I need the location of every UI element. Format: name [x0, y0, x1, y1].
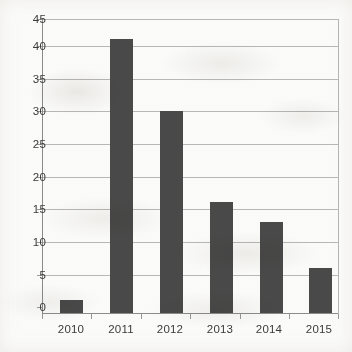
gridline-5 — [42, 275, 338, 276]
gridline-25 — [42, 144, 338, 145]
bar-2011 — [110, 39, 133, 313]
y-axis-tick-label: 0 — [16, 301, 46, 313]
y-axis-tick-label: 10 — [16, 236, 46, 248]
gridline-45 — [42, 19, 338, 20]
bar-2014 — [260, 222, 283, 313]
y-axis-tick-label: 20 — [16, 171, 46, 183]
x-axis-label-2015: 2015 — [294, 323, 344, 335]
gridline-15 — [42, 209, 338, 210]
gridline-30 — [42, 111, 338, 112]
x-axis-tick-mark — [240, 314, 241, 319]
y-axis-tick-label: 45 — [16, 13, 46, 25]
x-axis-label-2010: 2010 — [46, 323, 96, 335]
gridline-10 — [42, 242, 338, 243]
plot-area — [42, 19, 339, 314]
gridline-20 — [42, 177, 338, 178]
bar-2013 — [210, 202, 233, 313]
x-axis-label-2014: 2014 — [244, 323, 294, 335]
x-axis-tick-mark — [190, 314, 191, 319]
y-axis-tick-label: 40 — [16, 40, 46, 52]
x-axis-label-2011: 2011 — [96, 323, 146, 335]
bar-2010 — [60, 300, 83, 313]
bar-chart-figure: 45 40 35 30 25 20 15 10 5 0 — [0, 0, 352, 352]
x-axis-tick-mark — [42, 314, 43, 319]
x-axis-tick-mark — [91, 314, 92, 319]
y-axis-tick-label: 15 — [16, 203, 46, 215]
x-axis-tick-mark — [289, 314, 290, 319]
gridline-35 — [42, 79, 338, 80]
x-axis-label-2012: 2012 — [145, 323, 195, 335]
x-axis-tick-mark — [141, 314, 142, 319]
gridline-40 — [42, 46, 338, 47]
x-axis-tick-mark — [338, 314, 339, 319]
y-axis-tick-label: 30 — [16, 105, 46, 117]
y-axis-tick-label: 25 — [16, 138, 46, 150]
bar-2015 — [309, 268, 332, 313]
y-axis-tick-label: 5 — [16, 269, 46, 281]
bar-2012 — [160, 111, 183, 313]
x-axis-label-2013: 2013 — [195, 323, 245, 335]
y-axis-tick-label: 35 — [16, 73, 46, 85]
